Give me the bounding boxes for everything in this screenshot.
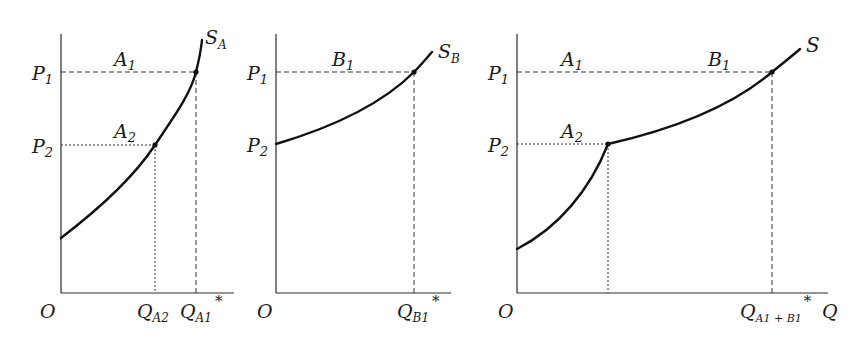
point-kink (605, 141, 610, 146)
origin-label: O (257, 300, 273, 322)
market-supply-curve (517, 49, 800, 249)
a2-label: A2 (112, 120, 136, 145)
p2-label: P2 (31, 135, 53, 160)
sa-label: SA (205, 26, 227, 52)
p1-label: P1 (487, 62, 509, 87)
qb1-label: QB1* (397, 292, 440, 325)
point-b1 (411, 69, 416, 74)
panel-market: P1 P2 A1 B1 A2 S O QA1 + B1* Q (487, 33, 838, 325)
origin-label: O (498, 300, 514, 322)
point-a2 (152, 142, 157, 147)
p2-label: P2 (246, 134, 268, 159)
p1-label: P1 (246, 62, 268, 87)
supply-diagram: P1 P2 A1 A2 SA O QA2 QA1* P1 P2 B1 SB O … (0, 0, 862, 345)
p2-label: P2 (487, 134, 509, 159)
panel-a: P1 P2 A1 A2 SA O QA2 QA1* (31, 26, 234, 325)
b1-label: B1 (331, 48, 354, 73)
point-a1 (193, 69, 198, 74)
qab1-label: QA1 + B1* (740, 292, 812, 325)
panel-b: P1 P2 B1 SB O QB1* (246, 34, 460, 325)
a2-label: A2 (559, 120, 583, 145)
origin-label: O (40, 300, 56, 322)
a1-label: A1 (559, 48, 583, 73)
s-label: S (806, 33, 820, 57)
sb-label: SB (438, 40, 460, 66)
qa1-label: QA1* (180, 292, 223, 325)
b1-label: B1 (707, 48, 730, 73)
q-axis-label: Q (822, 300, 838, 322)
a1-label: A1 (112, 48, 136, 73)
point-market-p1 (769, 69, 774, 74)
p1-label: P1 (31, 62, 53, 87)
qa2-label: QA2 (137, 300, 169, 325)
